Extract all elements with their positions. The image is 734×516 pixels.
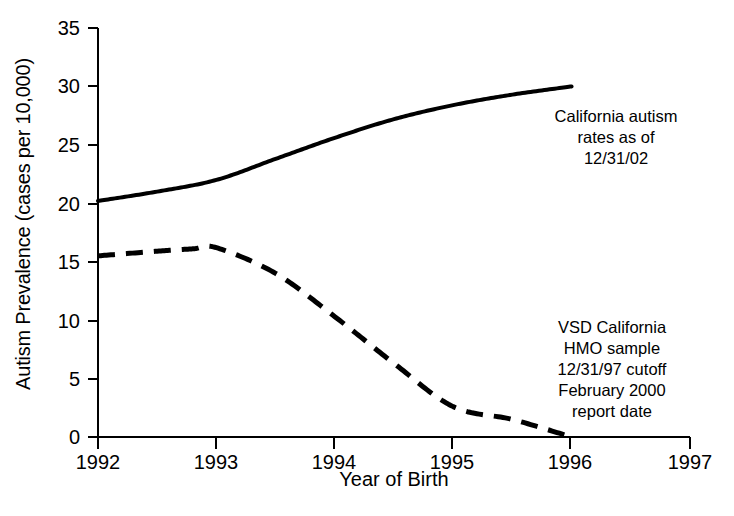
x-axis-title: Year of Birth	[98, 468, 690, 491]
y-tick-label-30: 30	[36, 76, 80, 96]
annotation-solid-line-3: 12/31/02	[516, 148, 716, 169]
annotation-solid-line-2: rates as of	[516, 127, 716, 148]
annotation-dashed-line-2: HMO sample	[512, 338, 712, 359]
annotation-vsd-hmo-sample: VSD California HMO sample 12/31/97 cutof…	[512, 317, 712, 422]
series-line-california-autism-rates	[98, 86, 572, 201]
y-tick-label-35: 35	[36, 18, 80, 38]
y-axis-ticks	[88, 28, 98, 437]
y-tick-label-15: 15	[36, 252, 80, 272]
y-tick-label-20: 20	[36, 194, 80, 214]
y-axis-title: Autism Prevalence (cases per 10,000)	[6, 0, 40, 454]
annotation-dashed-line-3: 12/31/97 cutoff	[512, 359, 712, 380]
annotation-solid-line-1: California autism	[516, 106, 716, 127]
x-axis-ticks	[98, 437, 690, 449]
annotation-dashed-line-1: VSD California	[512, 317, 712, 338]
y-tick-label-25: 25	[36, 135, 80, 155]
annotation-dashed-line-5: report date	[512, 401, 712, 422]
series-line-vsd-hmo-sample	[98, 246, 572, 437]
annotation-dashed-line-4: February 2000	[512, 380, 712, 401]
annotation-california-autism-rates: California autism rates as of 12/31/02	[516, 106, 716, 169]
y-tick-label-5: 5	[36, 369, 80, 389]
y-tick-label-0: 0	[36, 427, 80, 447]
y-tick-label-10: 10	[36, 311, 80, 331]
plot-canvas	[0, 0, 734, 516]
chart-figure: 35 30 25 20 15 10 5 0 1992 1993 1994 199…	[0, 0, 734, 516]
